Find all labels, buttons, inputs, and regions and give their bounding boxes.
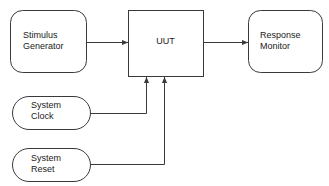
connector-system-reset-to-uut (90, 77, 165, 165)
node-system-reset[interactable] (13, 149, 91, 182)
node-response-monitor[interactable] (249, 11, 323, 73)
diagram-vector-layer (0, 0, 329, 186)
block-diagram-canvas: Stimulus Generator UUT Response Monitor … (0, 0, 329, 186)
node-uut[interactable] (129, 11, 204, 77)
node-system-clock[interactable] (13, 97, 91, 130)
connector-system-clock-to-uut (90, 77, 147, 114)
node-stimulus-generator[interactable] (11, 11, 87, 73)
